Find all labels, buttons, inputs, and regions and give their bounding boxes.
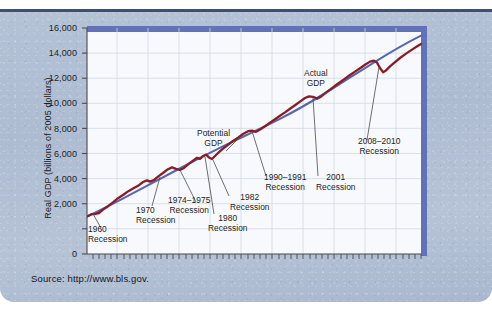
annotation-1990-1991-recession: 1990–1991 Recession [264, 172, 306, 193]
annotation-2001-recession-line2: Recession [316, 182, 356, 192]
gdp-chart: Real GDP (billions of 2005 dollars) 16,0… [0, 0, 492, 312]
annotation-potential-gdp-line2: GDP [197, 138, 230, 148]
annotation-1990-1991-recession-line1: 1990–1991 [264, 172, 306, 182]
annotation-2008-2010-recession-line1: 2008–2010 [358, 136, 400, 146]
annotation-1980-recession: 1980 Recession [208, 213, 248, 234]
annotation-actual-gdp-line2: GDP [304, 78, 328, 88]
figure-root: Real GDP (billions of 2005 dollars) 16,0… [0, 0, 492, 312]
y-axis-title: Real GDP (billions of 2005 dollars) [43, 38, 53, 258]
annotation-1974-1975-recession-line1: 1974–1975 [168, 195, 210, 205]
annotation-1982-recession-line1: 1982 [230, 192, 270, 202]
annotation-1960-recession-line1: 1960 [88, 224, 128, 234]
y-tick-label-6000: 6,000 [33, 149, 77, 159]
y-tick-label-4000: 4,000 [33, 174, 77, 184]
y-tick-label-2000: 2,000 [33, 199, 77, 209]
annotation-1974-1975-recession: 1974–1975 Recession [168, 195, 210, 216]
y-tick-label-12000: 12,000 [33, 73, 77, 83]
x-axis-ticks [93, 254, 421, 259]
annotation-1982-recession-line2: Recession [230, 202, 270, 212]
annotation-actual-gdp: Actual GDP [304, 68, 328, 89]
y-axis-ticks [82, 28, 87, 254]
annotation-potential-gdp: Potential GDP [197, 128, 230, 149]
y-tick-label-14000: 14,000 [33, 48, 77, 58]
y-tick-label-16000: 16,000 [33, 23, 77, 33]
annotation-potential-gdp-line1: Potential [197, 128, 230, 138]
y-tick-label-10000: 10,000 [33, 98, 77, 108]
annotation-1974-1975-recession-line2: Recession [168, 205, 210, 215]
source-note: Source: http://www.bls.gov. [31, 273, 149, 284]
annotation-actual-gdp-line1: Actual [304, 68, 328, 78]
y-tick-label-0: 0 [33, 249, 77, 259]
annotation-1982-recession: 1982 Recession [230, 192, 270, 213]
annotation-1960-recession-line2: Recession [88, 234, 128, 244]
annotation-2008-2010-recession-line2: Recession [358, 146, 400, 156]
annotation-1980-recession-line2: Recession [208, 223, 248, 233]
annotation-1980-recession-line1: 1980 [208, 213, 248, 223]
annotation-1960-recession: 1960 Recession [88, 224, 128, 245]
plot-right-band [421, 26, 427, 256]
annotation-1990-1991-recession-line2: Recession [264, 182, 306, 192]
plot-top-band [87, 26, 425, 32]
annotation-1970-recession-line2: Recession [136, 215, 176, 225]
annotation-2001-recession-line1: 2001 [316, 172, 356, 182]
annotation-2001-recession: 2001 Recession [316, 172, 356, 193]
y-tick-label-8000: 8,000 [33, 124, 77, 134]
annotation-2008-2010-recession: 2008–2010 Recession [358, 136, 400, 157]
